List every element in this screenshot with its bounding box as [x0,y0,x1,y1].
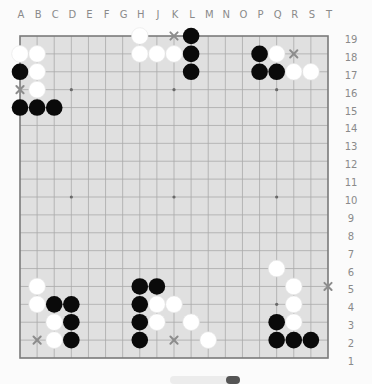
black-stone[interactable] [131,314,148,331]
column-label: J [155,9,159,20]
white-stone[interactable] [29,81,46,98]
row-label: 17 [345,70,358,81]
white-stone[interactable] [183,314,200,331]
white-stone[interactable] [285,278,302,295]
star-point [172,88,175,91]
white-stone[interactable] [149,296,166,313]
white-stone[interactable] [131,46,148,63]
black-stone[interactable] [12,63,29,80]
column-label: F [104,9,110,20]
column-label: T [325,9,333,20]
white-stone[interactable] [29,278,46,295]
black-stone[interactable] [29,99,46,116]
row-label: 7 [348,249,354,260]
black-stone[interactable] [268,314,285,331]
column-label: N [223,9,230,20]
bottom-control-knob[interactable] [226,376,240,384]
column-label: H [137,9,145,20]
column-label: K [172,9,179,20]
white-stone[interactable] [285,314,302,331]
black-stone[interactable] [131,278,148,295]
black-stone[interactable] [268,332,285,349]
row-label: 1 [348,356,354,367]
column-label: G [120,9,128,20]
column-label: B [35,9,42,20]
column-label: A [18,9,25,20]
white-stone[interactable] [166,296,183,313]
white-stone[interactable] [166,46,183,63]
white-stone[interactable] [149,46,166,63]
white-stone[interactable] [29,46,46,63]
black-stone[interactable] [46,99,63,116]
white-stone[interactable] [285,63,302,80]
row-label: 9 [348,213,354,224]
column-label: R [291,9,298,20]
white-stone[interactable] [285,296,302,313]
white-stone[interactable] [149,314,166,331]
black-stone[interactable] [183,46,200,63]
star-point [275,88,278,91]
black-stone[interactable] [251,46,268,63]
white-stone[interactable] [303,63,320,80]
white-stone[interactable] [200,332,217,349]
column-label: E [86,9,92,20]
column-label: L [189,9,195,20]
bottom-control[interactable] [170,376,240,384]
row-label: 4 [348,302,354,313]
column-label: P [258,9,264,20]
row-label: 12 [345,159,358,170]
white-stone[interactable] [29,296,46,313]
black-stone[interactable] [149,278,166,295]
black-stone[interactable] [131,332,148,349]
column-label: Q [274,9,282,20]
white-stone[interactable] [12,46,29,63]
white-stone[interactable] [268,46,285,63]
black-stone[interactable] [63,332,80,349]
white-stone[interactable] [29,63,46,80]
column-label: O [240,9,248,20]
black-stone[interactable] [268,63,285,80]
black-stone[interactable] [131,296,148,313]
white-stone[interactable] [46,332,63,349]
row-label: 14 [345,123,358,134]
black-stone[interactable] [183,28,200,45]
white-stone[interactable] [131,28,148,45]
row-label: 2 [348,338,354,349]
star-point [70,195,73,198]
row-label: 10 [345,195,358,206]
row-label: 8 [348,231,354,242]
star-point [70,88,73,91]
row-label: 3 [348,320,354,331]
row-label: 15 [345,106,358,117]
black-stone[interactable] [285,332,302,349]
row-label: 16 [345,88,358,99]
row-label: 11 [345,177,358,188]
star-point [275,195,278,198]
black-stone[interactable] [251,63,268,80]
row-label: 13 [345,141,358,152]
row-label: 5 [348,284,354,295]
row-label: 18 [345,52,358,63]
black-stone[interactable] [303,332,320,349]
row-label: 6 [348,267,354,278]
black-stone[interactable] [12,99,29,116]
black-stone[interactable] [183,63,200,80]
black-stone[interactable] [63,314,80,331]
white-stone[interactable] [268,260,285,277]
column-label: D [68,9,76,20]
star-point [275,303,278,306]
black-stone[interactable] [46,296,63,313]
black-stone[interactable] [63,296,80,313]
star-point [172,195,175,198]
column-label: C [52,9,59,20]
column-label: M [205,9,214,20]
white-stone[interactable] [46,314,63,331]
column-label: S [309,9,315,20]
row-label: 19 [345,34,358,45]
